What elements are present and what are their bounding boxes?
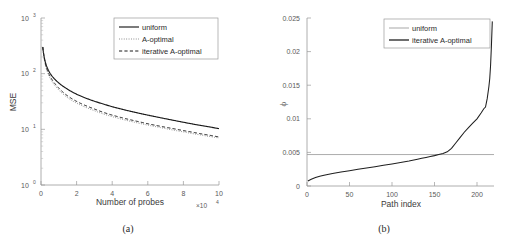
y-tick-exponent-a: 3 [33,12,36,18]
x-axis-label-b: Path index [381,199,422,209]
y-tick-exponent-a: 1 [33,123,36,129]
x-tick-label-b: 0 [305,191,309,198]
y-tick-label-a: 10 [21,182,29,189]
x-ticks-a: 0246810 [39,181,223,197]
x-tick-label-a: 6 [146,190,150,197]
x-tick-label-a: 4 [110,190,114,197]
subplot-b-svg: 00.0050.010.0150.020.025 050100150200 un… [256,0,512,246]
y-tick-label-b: 0.005 [282,149,300,156]
x-tick-label-b: 50 [346,191,354,198]
legend-label-iterative-b: iterative A-optimal [412,36,472,45]
x-ticks-b: 050100150200 [305,182,483,198]
figure-container: 103102101100 0246810 uniform A-optimal i… [0,0,512,246]
legend-label-uniform-b: uniform [412,24,437,33]
subplot-b: 00.0050.010.0150.020.025 050100150200 un… [256,0,512,246]
subplot-caption-b: (b) [378,223,390,235]
y-tick-label-a: 10 [21,15,29,22]
y-tick-label-b: 0.02 [286,48,300,55]
legend-a: uniform A-optimal iterative A-optimal [114,18,218,59]
subplot-a: 103102101100 0246810 uniform A-optimal i… [0,0,256,246]
subplot-a-svg: 103102101100 0246810 uniform A-optimal i… [0,0,256,246]
x-tick-label-a: 10 [215,190,223,197]
x-tick-label-b: 200 [471,191,483,198]
y-tick-label-b: 0 [296,183,300,190]
legend-label-iterative-a: iterative A-optimal [142,47,202,56]
x-multiplier-exp-a: 4 [216,199,219,205]
x-tick-label-b: 150 [429,191,441,198]
x-tick-label-a: 2 [75,190,79,197]
y-tick-label-b: 0.01 [286,115,300,122]
x-axis-label-a: Number of probes [96,197,164,207]
x-tick-label-a: 8 [181,190,185,197]
x-tick-label-a: 0 [39,190,43,197]
x-multiplier-base-a: ×10 [196,202,207,209]
y-tick-label-b: 0.025 [282,15,300,22]
x-tick-label-b: 100 [386,191,398,198]
legend-b: uniform iterative A-optimal [384,19,490,48]
y-ticks-a: 103102101100 [21,12,45,189]
y-tick-exponent-a: 2 [33,67,36,73]
y-tick-label-a: 10 [21,70,29,77]
subplot-caption-a: (a) [122,223,133,235]
y-tick-label-a: 10 [21,126,29,133]
curves-a [43,47,219,138]
legend-label-a-optimal-a: A-optimal [142,35,174,44]
y-tick-label-b: 0.015 [282,82,300,89]
y-axis-label-b: ϕ [278,101,288,106]
y-tick-exponent-a: 0 [33,179,36,185]
x-axis-multiplier-a: ×10 4 [196,199,219,209]
y-axis-label-a: MSE [8,92,18,111]
legend-label-uniform-a: uniform [142,23,167,32]
